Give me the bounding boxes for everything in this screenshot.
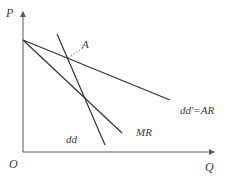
mr-curve (23, 40, 122, 133)
demand-mr-diagram: P Q O dd'=AR MR dd A (0, 0, 226, 180)
point-a-label: A (81, 38, 89, 50)
y-axis-label: P (5, 6, 14, 20)
dd-prime-ar-label: dd'=AR (180, 104, 214, 116)
x-axis-label: Q (205, 160, 214, 174)
point-a-leader (68, 48, 83, 58)
dd-prime-ar-curve (23, 40, 170, 100)
mr-label: MR (135, 126, 152, 138)
dd-curve (57, 34, 105, 145)
origin-label: O (9, 157, 18, 171)
dd-label: dd (66, 133, 78, 145)
